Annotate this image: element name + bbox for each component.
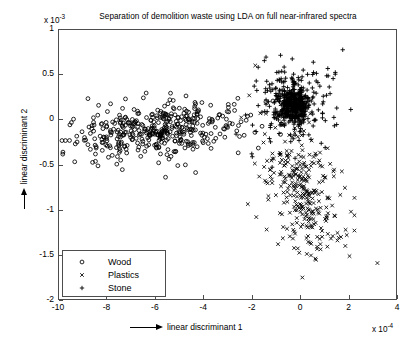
x-tick-mark [252,295,253,299]
x-axis-exponent-power: -4 [387,322,393,329]
legend-marker-circle-icon [73,255,91,269]
y-axis-title-text: linear discriminant 2 [19,109,29,185]
x-axis-exponent: x 10-4 [372,322,393,334]
chart-title: Separation of demolition waste using LDA… [58,12,398,22]
legend-label: Plastics [108,268,139,282]
y-tick-mark [59,29,63,30]
y-axis-exponent: x 10-3 [44,13,65,25]
x-tick-label: -2 [232,303,272,312]
legend-marker-x-icon [73,268,91,282]
figure-canvas: Separation of demolition waste using LDA… [0,0,415,349]
x-tick-label: 4 [377,303,415,312]
y-axis-arrow-icon [21,187,28,209]
legend-item-stone[interactable]: Stone [63,281,167,295]
y-tick-mark [59,210,63,211]
x-axis-exponent-base: x 10 [372,325,387,334]
x-tick-mark [300,295,301,299]
y-tick-mark [59,74,63,75]
legend-item-plastics[interactable]: Plastics [63,268,167,282]
x-axis-arrow-icon [130,324,164,331]
y-axis-exponent-power: -3 [59,13,65,20]
x-axis-title-text: linear discriminant 1 [167,322,243,332]
y-tick-mark [59,300,63,301]
y-tick-mark [59,165,63,166]
legend-label: Wood [108,255,131,269]
y-tick-label: -1.5 [12,250,54,259]
y-axis-title: linear discriminant 2 [19,79,29,239]
y-tick-mark [59,119,63,120]
legend-marker-plus-icon [73,281,91,295]
x-tick-label: -8 [86,303,126,312]
x-tick-mark [203,295,204,299]
y-tick-label: 0.5 [12,69,54,78]
legend-label: Stone [108,281,132,295]
x-tick-mark [397,295,398,299]
y-tick-label: 1 [12,24,54,33]
x-tick-label: 0 [280,303,320,312]
legend-item-wood[interactable]: Wood [63,255,167,269]
x-axis-title: linear discriminant 1 [130,322,243,332]
series-wood [60,91,283,179]
x-tick-mark [58,295,59,299]
x-tick-label: 2 [329,303,369,312]
x-tick-label: -4 [183,303,223,312]
series-plastics [239,64,379,280]
x-tick-label: -6 [135,303,175,312]
x-tick-label: -10 [38,303,78,312]
legend-box: WoodPlasticsStone [62,250,166,297]
x-tick-mark [349,295,350,299]
series-stone [234,48,353,170]
